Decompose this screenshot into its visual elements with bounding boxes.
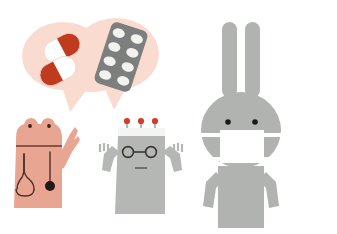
frog-eye-right bbox=[47, 124, 51, 128]
antenna-ball-1 bbox=[124, 118, 130, 124]
antenna-ball-2 bbox=[138, 118, 144, 124]
robot-body bbox=[115, 136, 165, 214]
rabbit-ear-left bbox=[222, 22, 237, 98]
rabbit-body bbox=[218, 166, 264, 228]
robot-head-band bbox=[118, 128, 165, 136]
rabbit-face-mask bbox=[220, 130, 264, 163]
stethoscope-chestpiece bbox=[45, 181, 55, 191]
illustration-canvas: Medical illustration: speech bubble with… bbox=[0, 0, 337, 234]
rabbit-ear-right bbox=[245, 22, 260, 98]
illustration-svg bbox=[0, 0, 337, 234]
rabbit-eye-right bbox=[252, 119, 258, 125]
antenna-ball-3 bbox=[152, 118, 158, 124]
frog-eye-left bbox=[28, 124, 32, 128]
rabbit-eye-left bbox=[225, 119, 231, 125]
